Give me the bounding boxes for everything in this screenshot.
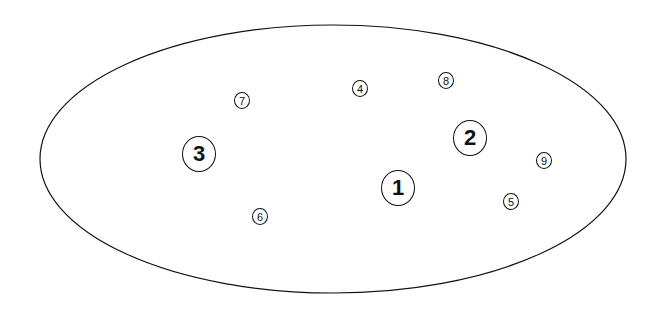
node-5: 5: [503, 193, 519, 210]
node-label: 4: [357, 83, 363, 95]
node-7: 7: [234, 92, 250, 109]
node-8: 8: [438, 72, 454, 89]
node-6: 6: [252, 208, 268, 225]
node-label: 1: [392, 175, 404, 201]
node-4: 4: [352, 80, 368, 97]
node-9: 9: [536, 152, 552, 169]
node-label: 5: [508, 196, 514, 208]
node-label: 7: [239, 95, 245, 107]
node-label: 6: [257, 211, 263, 223]
node-3: 3: [182, 136, 216, 172]
diagram: 1 2 3 4 5 6 7 8 9: [0, 0, 655, 311]
node-label: 9: [541, 155, 547, 167]
node-1: 1: [381, 170, 415, 206]
node-2: 2: [453, 120, 487, 156]
node-label: 3: [193, 141, 205, 167]
boundary-ellipse: [0, 0, 655, 311]
node-label: 2: [464, 125, 476, 151]
node-label: 8: [443, 75, 449, 87]
